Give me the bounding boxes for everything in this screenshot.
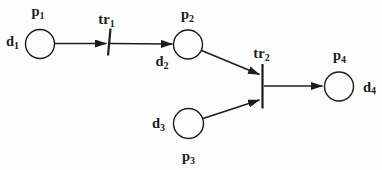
place-p3-circle <box>174 109 204 139</box>
place-p3-name-label: p3 <box>182 148 195 166</box>
petri-net-diagram-canvas: tr1tr2p1d1p2d2p3d3p4d4 <box>0 0 382 170</box>
place-p2-data-label: d2 <box>155 53 168 71</box>
place-p4-circle <box>325 72 354 101</box>
place-p1-name-label: p1 <box>31 3 44 21</box>
arc-p2-to-tr2 <box>202 51 260 75</box>
place-p2-circle <box>174 30 203 59</box>
place-p1-circle <box>26 30 55 59</box>
transition-tr2-label: tr2 <box>253 45 269 63</box>
place-p3-data-label: d3 <box>152 115 165 133</box>
petri-net-figure: tr1tr2p1d1p2d2p3d3p4d4 <box>0 0 382 170</box>
place-p4-name-label: p4 <box>333 47 346 65</box>
place-p4-data-label: d4 <box>363 79 376 97</box>
arc-p3-to-tr2 <box>203 100 260 119</box>
transition-tr1-bar <box>108 29 111 56</box>
place-p2-name-label: p2 <box>181 6 194 24</box>
arc-tr1-to-p2 <box>110 44 173 45</box>
transition-tr1-label: tr1 <box>98 11 114 29</box>
place-p1-data-label: d1 <box>6 33 19 51</box>
